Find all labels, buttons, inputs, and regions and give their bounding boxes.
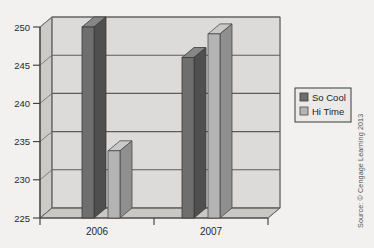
source-attribution: Source: © Cengage Learning 2013 [356, 114, 365, 228]
legend-item-so-cool[interactable]: So Cool [300, 92, 346, 103]
y-tick-label-225: 225 [14, 213, 30, 224]
y-tick-label-245: 245 [14, 60, 30, 71]
bar-front-face [208, 34, 220, 218]
bar-side-face [120, 141, 132, 218]
x-category-label-2007: 2007 [200, 226, 223, 237]
legend-swatch-hi-time [300, 107, 308, 115]
bar-2007-so-cool[interactable] [182, 48, 206, 219]
bar-2007-hi-time[interactable] [208, 24, 232, 218]
plot-left-wall [40, 17, 52, 218]
bar-side-face [220, 24, 232, 218]
bar-front-face [82, 27, 94, 218]
y-tick-label-240: 240 [14, 98, 30, 109]
legend-swatch-so-cool [300, 93, 308, 101]
plot-area [40, 17, 280, 218]
legend: So Cool Hi Time [295, 88, 351, 122]
x-category-label-2006: 2006 [86, 226, 109, 237]
bar-2006-hi-time[interactable] [108, 141, 132, 218]
legend-item-hi-time[interactable]: Hi Time [300, 106, 344, 117]
bar-front-face [182, 58, 194, 219]
chart-canvas: 250 245 240 235 230 225 [0, 0, 374, 248]
bar-side-face [94, 17, 106, 218]
legend-label-so-cool: So Cool [312, 92, 346, 103]
bar-side-face [194, 48, 206, 219]
bar-2006-so-cool[interactable] [82, 17, 106, 218]
y-tick-label-230: 230 [14, 174, 30, 185]
legend-label-hi-time: Hi Time [312, 106, 344, 117]
y-tick-label-250: 250 [14, 22, 30, 33]
y-tick-label-235: 235 [14, 136, 30, 147]
plot-floor [40, 208, 280, 218]
bar-front-face [108, 151, 120, 218]
bar-chart-figure: 250 245 240 235 230 225 [0, 0, 374, 248]
